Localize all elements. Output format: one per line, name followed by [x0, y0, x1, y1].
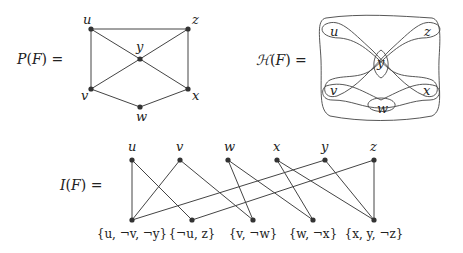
variable-label-v: v	[176, 139, 184, 154]
primal-node-v	[88, 86, 93, 91]
hypergraph: uzyvxw	[319, 15, 440, 120]
variable-node-z	[371, 157, 376, 162]
hypergraph-vertex-z: z	[423, 24, 431, 39]
incidence-edge-x-c5	[277, 160, 374, 220]
primal-edge-y-v	[91, 59, 140, 89]
clause-node-c2	[189, 217, 194, 222]
clause-node-c5	[371, 217, 376, 222]
primal-node-y	[137, 56, 142, 61]
variable-node-y	[322, 157, 327, 162]
hypergraph-vertex-w: w	[377, 101, 388, 116]
primal-node-label-y: y	[135, 39, 144, 54]
incidence-edge-z-c2	[192, 160, 374, 220]
primal-node-x	[185, 86, 190, 91]
primal-edge-y-x	[140, 59, 188, 89]
hypergraph-vertex-u: u	[330, 24, 338, 39]
primal-node-label-x: x	[192, 88, 200, 103]
clause-label-c2: {¬u, z}	[168, 227, 215, 241]
primal-node-u	[88, 26, 93, 31]
primal-node-label-u: u	[83, 12, 91, 27]
incidence-edge-v-c3	[180, 160, 253, 220]
variable-node-w	[225, 157, 230, 162]
variable-node-u	[129, 157, 134, 162]
clause-node-c3	[250, 217, 255, 222]
primal-graph: uzyvxw	[81, 12, 200, 124]
clause-node-c1	[129, 217, 134, 222]
primal-edge-z-y	[140, 29, 188, 59]
variable-label-w: w	[224, 139, 235, 154]
clause-label-c5: {x, y, ¬z}	[345, 227, 404, 241]
variable-label-x: x	[273, 139, 281, 154]
primal-edge-v-w	[91, 89, 140, 107]
variable-label-u: u	[128, 139, 136, 154]
primal-graph-label: P(F) =	[16, 51, 63, 67]
primal-node-label-v: v	[81, 88, 89, 103]
clause-label-c1: {u, ¬v, ¬y}	[97, 227, 168, 241]
incidence-edge-y-c5	[325, 160, 374, 220]
variable-label-z: z	[369, 139, 377, 154]
clause-label-c4: {w, ¬x}	[289, 227, 338, 241]
diagram-canvas: P(F) = uzyvxw ℋ(F) = uzyvxw I(F) = uvwxy…	[0, 0, 463, 253]
primal-edge-u-y	[91, 29, 140, 59]
incidence-edge-v-c1	[132, 160, 180, 220]
clause-label-c3: {v, ¬w}	[229, 227, 278, 241]
incidence-graph: uvwxyz{u, ¬v, ¬y}{¬u, z}{v, ¬w}{w, ¬x}{x…	[97, 139, 404, 241]
hypergraph-vertex-v: v	[330, 83, 338, 98]
variable-label-y: y	[320, 139, 329, 154]
primal-node-label-z: z	[191, 12, 199, 27]
hypergraph-vertex-x: x	[423, 83, 431, 98]
primal-edge-w-x	[140, 89, 188, 107]
clause-node-c4	[310, 217, 315, 222]
variable-node-x	[274, 157, 279, 162]
variable-node-v	[177, 157, 182, 162]
incidence-graph-label: I(F) =	[59, 177, 102, 193]
primal-node-label-w: w	[136, 109, 147, 124]
hypergraph-vertex-y: y	[376, 55, 385, 70]
primal-node-z	[185, 26, 190, 31]
incidence-edge-y-c1	[132, 160, 325, 220]
hypergraph-label: ℋ(F) =	[256, 52, 307, 68]
